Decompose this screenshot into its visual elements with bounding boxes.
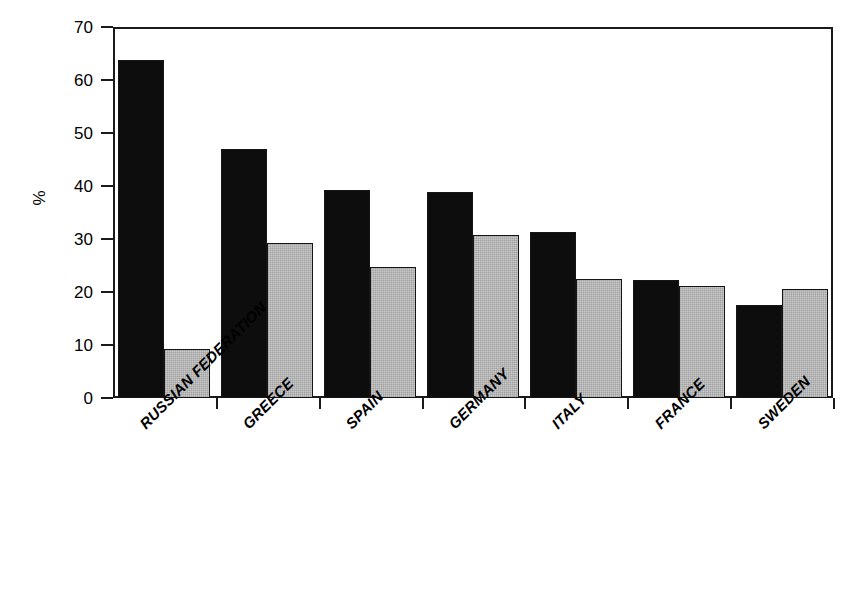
x-tick-mark bbox=[627, 398, 629, 409]
x-tick-mark bbox=[422, 398, 424, 409]
y-tick-label: 0 bbox=[33, 390, 93, 407]
x-tick-mark bbox=[833, 398, 835, 409]
y-tick-label: 70 bbox=[33, 19, 93, 36]
y-tick-label: 20 bbox=[33, 284, 93, 301]
y-tick-mark bbox=[101, 132, 113, 134]
y-tick-mark bbox=[101, 291, 113, 293]
x-tick-mark bbox=[319, 398, 321, 409]
x-tick-mark bbox=[524, 398, 526, 409]
y-tick-label: 10 bbox=[33, 337, 93, 354]
y-tick-label: 50 bbox=[33, 125, 93, 142]
y-tick-mark bbox=[101, 26, 113, 28]
x-tick-mark bbox=[730, 398, 732, 409]
y-tick-label: 30 bbox=[33, 231, 93, 248]
y-tick-mark bbox=[101, 344, 113, 346]
y-tick-mark bbox=[101, 185, 113, 187]
y-tick-label: 40 bbox=[33, 178, 93, 195]
y-tick-mark bbox=[101, 397, 113, 399]
y-tick-mark bbox=[101, 238, 113, 240]
y-tick-label: 60 bbox=[33, 72, 93, 89]
bar-chart: % 010203040506070 RUSSIAN FEDERATIONGREE… bbox=[0, 0, 854, 597]
y-tick-mark bbox=[101, 79, 113, 81]
x-tick-mark bbox=[216, 398, 218, 409]
